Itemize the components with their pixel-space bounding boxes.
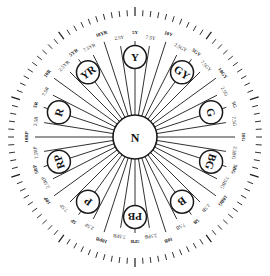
hue-step-label: 2.5B (200, 203, 211, 214)
hue-step-label: 2.5BG (231, 146, 238, 160)
tick-mark (48, 44, 52, 48)
hue-step-label: 7.5Y (145, 35, 156, 42)
tick-mark (32, 208, 37, 212)
hue-step-label: 10PB (95, 236, 108, 244)
hue-step-label: 7.5G (231, 116, 238, 127)
principal-hue-pb: PB (124, 206, 147, 229)
hue-step-label: 5YR (68, 47, 79, 57)
tick-mark (255, 152, 261, 153)
tick-mark (228, 56, 233, 60)
tick-mark (67, 239, 70, 244)
tick-mark (218, 225, 222, 229)
hue-step-label: 10Y (164, 30, 174, 38)
tick-mark (206, 235, 211, 242)
hue-step-label: 2.5Y (114, 35, 125, 42)
tick-mark (200, 239, 203, 244)
tick-mark (237, 69, 242, 72)
tick-mark (233, 208, 238, 212)
tick-mark (206, 32, 211, 39)
hue-step-label: 7.5GY (199, 59, 212, 72)
tick-mark (54, 39, 58, 44)
tick-mark (255, 121, 261, 122)
tick-mark (180, 19, 182, 25)
hue-circle-diagram: 5Y7.5Y10Y2.5GY5GY7.5GY10GY2.5G5G7.5G10G2… (0, 0, 270, 276)
tick-mark (42, 50, 46, 54)
tick-mark (248, 182, 254, 184)
principal-hue-y: Y (124, 46, 147, 69)
tick-mark (11, 97, 20, 100)
tick-mark (250, 174, 259, 177)
hue-step-label: 10YR (95, 30, 109, 39)
tick-mark (9, 121, 15, 122)
hue-step-label: 10BG (217, 194, 228, 207)
hue-spoke (44, 123, 113, 134)
hue-step-label: 2.5P (84, 222, 95, 231)
tick-mark (12, 167, 18, 168)
tick-mark (20, 83, 25, 86)
tick-mark (24, 76, 29, 79)
hue-step-label: 7.5R (41, 85, 50, 96)
hue-spoke (157, 140, 226, 151)
hue-step-label: 5RP (32, 164, 40, 174)
tick-mark (180, 250, 182, 256)
tick-mark (81, 22, 84, 27)
tick-mark (96, 16, 98, 22)
principal-hue-p: P (76, 190, 99, 213)
tick-mark (241, 195, 246, 198)
tick-mark (228, 214, 233, 218)
hue-step-label: 2.5RP (40, 176, 50, 189)
tick-mark (218, 44, 222, 48)
tick-mark (119, 11, 120, 17)
hue-step-label: 10GY (217, 67, 229, 80)
tick-mark (103, 254, 104, 260)
tick-mark (252, 105, 258, 106)
hue-step-label: 7.5B (175, 222, 186, 231)
tick-mark (88, 250, 90, 256)
hue-step-label: 10RP (24, 131, 29, 143)
tick-mark (9, 152, 15, 153)
tick-mark (74, 26, 77, 31)
tick-mark (88, 19, 90, 25)
tick-mark (150, 11, 151, 17)
tick-mark (119, 257, 120, 263)
tick-mark (150, 257, 151, 263)
hue-step-label: 10B (163, 236, 173, 244)
tick-mark (187, 246, 190, 251)
tick-mark (74, 243, 77, 248)
tick-mark (32, 62, 37, 66)
principal-hue-b: B (171, 190, 194, 213)
tick-mark (24, 195, 29, 198)
principal-hue-label: Y (131, 51, 139, 63)
hue-step-label: 5P (70, 218, 77, 225)
hue-step-label: 2.5GY (173, 42, 188, 53)
tick-mark (244, 189, 249, 192)
hue-step-label: 10P (43, 196, 52, 205)
neutral-center: N (113, 115, 157, 159)
tick-mark (223, 220, 227, 224)
hue-step-label: 7.5PB (112, 233, 126, 240)
hue-step-label: 2.5R (33, 116, 40, 127)
tick-mark (48, 225, 52, 229)
neutral-label: N (131, 131, 140, 145)
principal-hue-bg: BG (200, 150, 223, 173)
tick-mark (11, 174, 20, 177)
hue-step-label: 5G (231, 101, 238, 109)
hue-step-label: 5PB (130, 239, 140, 244)
hue-step-label: 7.5YR (82, 42, 97, 53)
hue-step-label: 7.5RP (32, 146, 39, 159)
tick-mark (172, 16, 174, 22)
principal-hue-label: PB (127, 211, 142, 223)
hue-spoke (157, 123, 226, 134)
tick-mark (10, 113, 16, 114)
tick-mark (111, 256, 112, 262)
tick-mark (37, 56, 42, 60)
tick-mark (165, 14, 166, 20)
principal-hue-r: R (47, 101, 70, 124)
tick-mark (103, 14, 104, 20)
tick-mark (200, 30, 203, 35)
tick-mark (250, 97, 259, 100)
principal-hue-rp: RP (47, 150, 70, 173)
tick-mark (158, 12, 159, 18)
tick-mark (28, 69, 33, 72)
tick-mark (54, 230, 58, 235)
